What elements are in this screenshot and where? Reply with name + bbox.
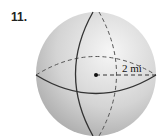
radius-label: 2 mi: [122, 62, 142, 74]
sphere-figure: 2 mi: [0, 0, 165, 136]
center-point: [94, 73, 98, 77]
